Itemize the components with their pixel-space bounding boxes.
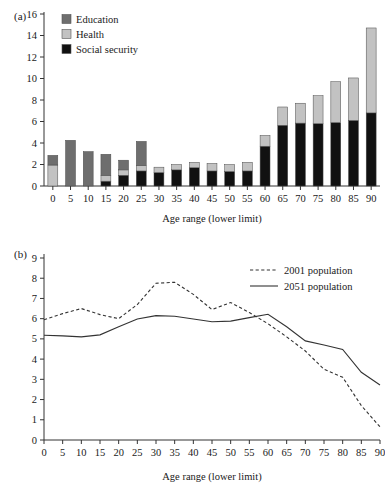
panel-a-x-tick: 55 [242,193,253,204]
panel-b-x-tick: 85 [356,447,367,458]
panel-a-bar-segment [313,96,323,124]
panel-a-bar-stack [366,28,376,186]
panel-a-x-tick: 65 [277,193,288,204]
panel-a-bar-segment [101,181,111,186]
panel-b-series-solid [44,314,380,385]
panel-a-bar-segment [119,160,129,170]
panel-a-y-tick: 0 [32,181,37,192]
panel-a-bar-segment [260,146,270,186]
panel-b-x-tick: 35 [169,447,180,458]
panel-a-bar-segment [366,28,376,113]
panel-a-bar-segment [278,125,288,186]
panel-a-bar-segment [207,171,217,186]
panel-a-bar-stack [331,82,341,186]
panel-a-bar-segment [154,167,164,172]
panel-a-bar-segment [225,171,235,186]
panel-a-y-tick: 14 [27,30,38,41]
panel-a-bar-segment [278,107,288,125]
panel-a-x-tick: 25 [136,193,147,204]
panel-b-x-tick: 55 [244,447,255,458]
panel-a-x-tick: 40 [189,193,200,204]
panel-a-x-tick: 70 [295,193,306,204]
panel-b-x-axis-title: Age range (lower limit) [162,471,262,483]
panel-a-legend-label: Education [76,14,119,25]
panel-b-x-tick: 40 [188,447,199,458]
panel-a-x-tick: 80 [331,193,342,204]
panel-a-bar-segment [66,140,76,186]
panel-a-legend-swatch [62,30,71,39]
panel-a-bar-stack [66,140,76,186]
panel-a-bar-stack [119,160,129,186]
panel-b-y-tick: 2 [32,394,37,405]
panel-a-x-tick: 90 [366,193,377,204]
panel-a-x-tick: 20 [118,193,129,204]
panel-b-x-tick: 0 [41,447,46,458]
panel-a-svg: 0246810121416 05101520253035404550556065… [0,0,385,250]
panel-a-bar-segment [172,170,182,186]
panel-a-legend-label: Social security [76,44,139,55]
panel-a-bar-stack [295,103,305,186]
panel-a-y-tick: 10 [27,73,38,84]
panel-a-label: (a) [14,10,26,22]
panel-a-legend-label: Health [76,29,105,40]
panel-b-x-tick: 80 [337,447,348,458]
panel-b-legend: 2001 population2051 population [250,265,353,292]
panel-a-bar-segment [349,120,359,186]
panel-a-x-tick: 35 [171,193,182,204]
panel-a-y-tick: 2 [32,159,37,170]
panel-b-y-tick: 6 [32,313,37,324]
panel-a-bar-segment [154,173,164,186]
panel-a-bar-stack [101,154,111,186]
panel-a-bar-stack [136,141,146,186]
panel-a-x-tick: 30 [154,193,165,204]
panel-a-bar-segment [260,135,270,146]
panel-b-x-tick: 90 [375,447,385,458]
panel-a-bar-stack [242,162,252,186]
panel-a-x-tick: 50 [224,193,235,204]
panel-a-x-tick: 5 [68,193,73,204]
panel-a-bar-segment [242,171,252,186]
panel-a-bar-segment [295,103,305,123]
panel-a-bar-stack [225,165,235,187]
panel-b-x-tick: 75 [319,447,330,458]
panel-b-x-tick: 5 [60,447,65,458]
chart-panel-b: 0123456789 05101520253035404550556065707… [0,240,385,498]
panel-b-x-tick: 50 [225,447,236,458]
panel-a-y-tick: 16 [27,9,38,20]
panel-a-bar-segment [366,113,376,186]
panel-a-bar-stack [349,78,359,186]
panel-a-bar-segment [136,141,146,165]
panel-b-y-tick: 1 [32,414,37,425]
panel-a-bar-segment [83,152,93,186]
panel-b-label: (b) [14,248,27,260]
panel-b-y-tick: 4 [32,354,38,365]
panel-a-bar-stack [189,162,199,186]
panel-a-x-tick: 75 [313,193,324,204]
panel-b-x-tick: 10 [76,447,87,458]
panel-b-y-tick: 0 [32,435,37,446]
panel-b-legend-label: 2001 population [284,265,353,276]
panel-a-legend-swatch [62,15,71,24]
panel-b-x-tick: 45 [207,447,218,458]
panel-a-x-tick: 60 [260,193,271,204]
panel-b-y-tick: 5 [32,333,37,344]
panel-a-bar-segment [313,124,323,186]
panel-a-y-tick: 4 [32,138,38,149]
panel-a-bar-stack [83,152,93,186]
panel-a-bar-segment [48,155,58,165]
panel-b-x-tick-labels: 051015202530354045505560657075808590 [41,447,385,458]
panel-b-x-tick: 25 [132,447,143,458]
panel-a-x-tick: 45 [207,193,218,204]
panel-b-x-tick: 65 [281,447,292,458]
panel-b-y-tick: 9 [32,253,37,264]
panel-a-bar-segment [48,165,58,186]
panel-a-bar-segment [119,175,129,186]
panel-b-legend-label: 2051 population [284,281,353,292]
panel-a-bar-segment [331,123,341,186]
panel-a-x-tick: 10 [83,193,94,204]
panel-a-bar-stack [260,135,270,186]
panel-b-y-tick: 3 [32,374,37,385]
panel-a-bar-segment [295,123,305,186]
panel-a-bar-segment [136,166,146,171]
panel-a-legend: EducationHealthSocial security [62,14,139,55]
